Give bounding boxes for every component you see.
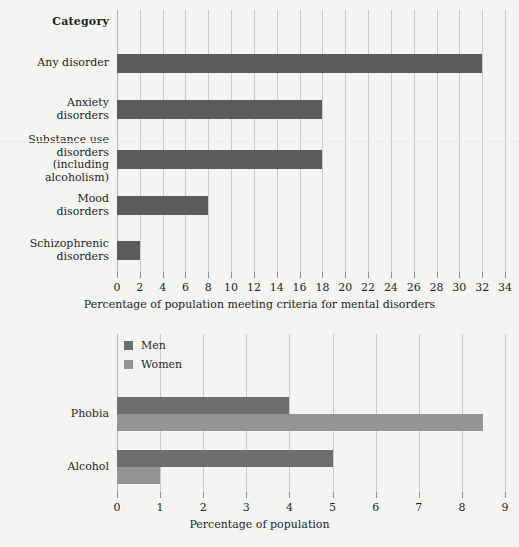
x-tick-4 xyxy=(163,272,164,278)
x-tick-14 xyxy=(277,272,278,278)
top-chart-category-label-3: Mood disorders xyxy=(56,193,109,218)
legend-swatch-women-icon xyxy=(124,360,133,369)
bottom-chart-category-label-1: Alcohol xyxy=(68,461,109,474)
bottom-chart-category-label-0: Phobia xyxy=(71,408,109,421)
gridline-7 xyxy=(419,334,420,492)
x-tick-5 xyxy=(333,492,334,498)
x-tick-label-4: 4 xyxy=(159,281,166,294)
x-tick-label-2: 2 xyxy=(136,281,143,294)
bar-percentage-of-population-1 xyxy=(117,100,322,119)
x-tick-6 xyxy=(376,492,377,498)
x-tick-label-26: 26 xyxy=(407,281,421,294)
x-tick-8 xyxy=(462,492,463,498)
x-tick-16 xyxy=(300,272,301,278)
x-tick-label-9: 9 xyxy=(502,501,509,514)
top-chart-category-label-1: Anxiety disorders xyxy=(56,97,109,122)
bar-percentage-of-population-3 xyxy=(117,196,208,215)
x-tick-label-32: 32 xyxy=(475,281,489,294)
bar-men-1 xyxy=(117,450,333,467)
x-tick-34 xyxy=(505,272,506,278)
bar-men-0 xyxy=(117,397,289,414)
x-tick-label-28: 28 xyxy=(430,281,444,294)
x-tick-1 xyxy=(160,492,161,498)
x-tick-label-24: 24 xyxy=(384,281,398,294)
x-tick-0 xyxy=(117,272,118,278)
x-tick-2 xyxy=(203,492,204,498)
x-tick-label-22: 22 xyxy=(361,281,375,294)
x-tick-label-3: 3 xyxy=(243,501,250,514)
bar-percentage-of-population-2 xyxy=(117,150,322,169)
x-tick-label-1: 1 xyxy=(157,501,164,514)
legend-label-women: Women xyxy=(141,359,182,370)
bottom-chart-category-labels: Phobia Alcohol xyxy=(0,332,113,547)
top-chart-category-header: Category xyxy=(52,16,109,29)
x-tick-label-4: 4 xyxy=(286,501,293,514)
top-chart-category-label-0: Any disorder xyxy=(37,57,109,70)
x-tick-12 xyxy=(254,272,255,278)
x-tick-26 xyxy=(414,272,415,278)
x-tick-label-18: 18 xyxy=(315,281,329,294)
x-tick-label-16: 16 xyxy=(293,281,307,294)
x-tick-28 xyxy=(437,272,438,278)
legend-swatch-men-icon xyxy=(124,341,133,350)
x-tick-label-6: 6 xyxy=(372,501,379,514)
x-tick-label-7: 7 xyxy=(415,501,422,514)
top-chart-category-labels: Category Any disorder Anxiety disorders … xyxy=(0,0,113,325)
gridline-4 xyxy=(289,334,290,492)
x-tick-24 xyxy=(391,272,392,278)
x-tick-4 xyxy=(289,492,290,498)
x-tick-label-14: 14 xyxy=(270,281,284,294)
bar-women-0 xyxy=(117,414,483,431)
x-tick-20 xyxy=(345,272,346,278)
gridline-5 xyxy=(333,334,334,492)
x-tick-18 xyxy=(322,272,323,278)
bottom-chart-x-axis-title: Percentage of population xyxy=(0,518,519,531)
x-tick-6 xyxy=(185,272,186,278)
x-tick-label-20: 20 xyxy=(338,281,352,294)
x-tick-2 xyxy=(140,272,141,278)
x-tick-32 xyxy=(482,272,483,278)
bottom-chart-legend: MenWomen xyxy=(124,337,182,375)
bar-percentage-of-population-0 xyxy=(117,54,482,73)
legend-item-women[interactable]: Women xyxy=(124,356,182,372)
x-tick-8 xyxy=(208,272,209,278)
x-tick-30 xyxy=(459,272,460,278)
x-tick-label-10: 10 xyxy=(224,281,238,294)
x-tick-label-6: 6 xyxy=(182,281,189,294)
x-tick-label-0: 0 xyxy=(114,281,121,294)
bar-percentage-of-population-4 xyxy=(117,241,140,260)
x-tick-10 xyxy=(231,272,232,278)
x-tick-label-8: 8 xyxy=(458,501,465,514)
gridline-8 xyxy=(462,334,463,492)
x-tick-label-34: 34 xyxy=(498,281,512,294)
x-tick-label-30: 30 xyxy=(452,281,466,294)
x-tick-label-12: 12 xyxy=(247,281,261,294)
chart-mental-disorders-prevalence: Category Any disorder Anxiety disorders … xyxy=(0,0,519,325)
x-tick-9 xyxy=(505,492,506,498)
x-tick-label-2: 2 xyxy=(200,501,207,514)
x-tick-label-0: 0 xyxy=(114,501,121,514)
gridline-6 xyxy=(376,334,377,492)
gridline-9 xyxy=(505,334,506,492)
chart-divider xyxy=(0,141,519,142)
top-chart-category-label-4: Schizophrenic disorders xyxy=(30,238,109,263)
x-tick-label-5: 5 xyxy=(329,501,336,514)
legend-label-men: Men xyxy=(141,340,166,351)
chart-page: Category Any disorder Anxiety disorders … xyxy=(0,0,519,547)
chart-phobia-alcohol-by-sex: Phobia Alcohol MenWomen 0123456789 Perce… xyxy=(0,332,519,547)
x-tick-label-8: 8 xyxy=(205,281,212,294)
x-tick-7 xyxy=(419,492,420,498)
top-chart-x-axis-title: Percentage of population meeting criteri… xyxy=(0,298,519,311)
bar-women-1 xyxy=(117,467,160,484)
legend-item-men[interactable]: Men xyxy=(124,337,182,353)
x-tick-0 xyxy=(117,492,118,498)
x-tick-3 xyxy=(246,492,247,498)
x-tick-22 xyxy=(368,272,369,278)
